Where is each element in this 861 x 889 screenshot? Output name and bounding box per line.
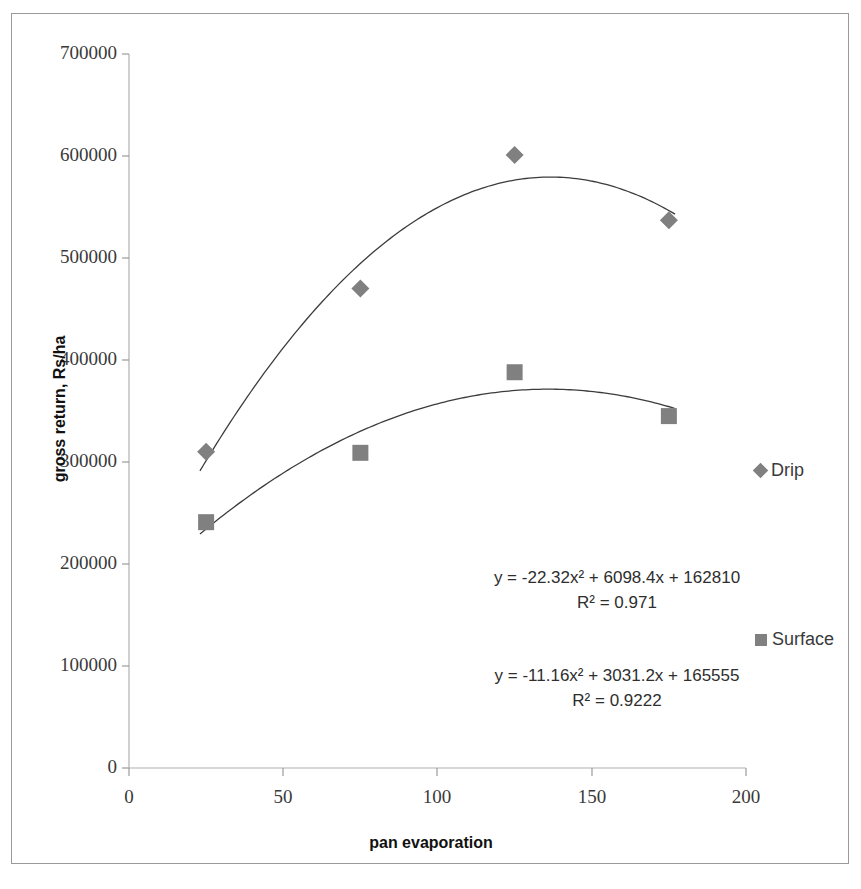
surface-equation-text: y = -11.16x² + 3031.2x + 165555: [467, 664, 767, 689]
chart-page: 700000 600000 500000 400000 300000 20000…: [0, 0, 861, 889]
x-tick-label-100: 100: [407, 786, 467, 808]
trendline-drip: [200, 177, 675, 471]
x-tick-label-200: 200: [716, 786, 776, 808]
legend-label-drip: Drip: [771, 460, 804, 481]
x-axis-title: pan evaporation: [12, 834, 850, 852]
surface-equation-annotation: y = -11.16x² + 3031.2x + 165555 R² = 0.9…: [467, 664, 767, 713]
x-tick-label-0: 0: [99, 786, 159, 808]
y-tick-label-200000: 200000: [7, 552, 117, 574]
x-tick-label-50: 50: [253, 786, 313, 808]
chart-plot-area: [12, 14, 850, 865]
y-tick-label-700000: 700000: [7, 42, 117, 64]
surface-r2-text: R² = 0.9222: [467, 689, 767, 714]
y-tick-label-100000: 100000: [7, 654, 117, 676]
x-axis-ticks: [129, 768, 746, 776]
y-axis-title: gross return, Rs/ha: [51, 299, 69, 519]
data-markers-drip: [197, 146, 678, 461]
y-tick-label-500000: 500000: [7, 246, 117, 268]
trendline-surface: [200, 389, 675, 534]
square-marker-icon: [755, 634, 767, 646]
chart-frame: 700000 600000 500000 400000 300000 20000…: [11, 13, 849, 864]
legend-item-drip[interactable]: Drip: [755, 460, 804, 481]
diamond-marker-icon: [753, 463, 769, 479]
y-tick-label-0: 0: [7, 756, 117, 778]
y-tick-label-600000: 600000: [7, 144, 117, 166]
legend-item-surface[interactable]: Surface: [755, 629, 834, 650]
data-markers-surface: [198, 364, 677, 530]
drip-r2-text: R² = 0.971: [467, 591, 767, 616]
drip-equation-text: y = -22.32x² + 6098.4x + 162810: [467, 566, 767, 591]
x-tick-label-150: 150: [562, 786, 622, 808]
legend-label-surface: Surface: [772, 629, 834, 650]
drip-equation-annotation: y = -22.32x² + 6098.4x + 162810 R² = 0.9…: [467, 566, 767, 615]
y-axis-ticks: [122, 54, 129, 768]
